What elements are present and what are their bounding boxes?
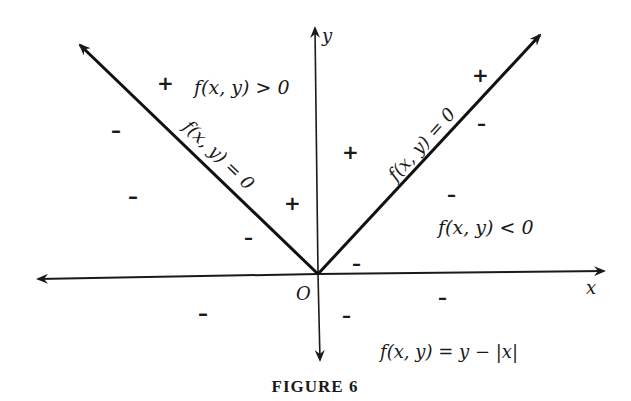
minus-sign: –: [342, 305, 351, 326]
figure-caption: FIGURE 6: [272, 377, 359, 396]
minus-sign: –: [447, 184, 456, 205]
left-arm-label: f(x, y) = 0: [178, 114, 259, 193]
plus-sign: +: [284, 191, 301, 215]
y-axis: [315, 28, 320, 360]
plus-sign: +: [472, 63, 489, 87]
minus-sign: –: [438, 287, 447, 308]
minus-sign: –: [128, 184, 138, 208]
minus-sign: –: [352, 253, 361, 274]
positive-region-label: f(x, y) > 0: [192, 76, 289, 98]
negative-region-label: f(x, y) < 0: [436, 216, 533, 238]
x-axis-label: x: [586, 277, 596, 298]
function-definition: f(x, y) = y − |x|: [378, 341, 518, 363]
minus-sign: –: [198, 301, 208, 325]
minus-sign: –: [244, 227, 253, 248]
right-arm-label: f(x, y) = 0: [382, 103, 459, 186]
plus-sign: +: [157, 71, 174, 95]
boundary-curve: [80, 35, 540, 274]
y-axis-label: y: [321, 25, 333, 46]
minus-sign: –: [477, 113, 486, 134]
minus-sign: –: [111, 118, 121, 142]
figure-canvas: y x O f(x, y) > 0 f(x, y) < 0 f(x, y) = …: [0, 0, 631, 401]
plus-sign: +: [342, 140, 359, 164]
origin-label: O: [296, 283, 311, 304]
